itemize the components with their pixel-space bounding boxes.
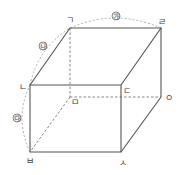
cuboid-diagram: ㉮ ㉯ ㉰ ㄱ ㄹ ㄴ ㄷ ㅁ ㅇ ㅂ ㅅ: [0, 0, 181, 175]
vertex-rieul: ㄹ: [158, 17, 166, 27]
vertex-bieup: ㅂ: [26, 156, 34, 166]
vertex-mieum: ㅁ: [71, 97, 79, 107]
vertex-nieun: ㄴ: [19, 82, 27, 92]
vertex-giyeok: ㄱ: [66, 15, 74, 25]
label-da: ㉰: [13, 114, 21, 123]
arc-da: [22, 85, 30, 152]
vertex-ieung: ㅇ: [165, 93, 173, 103]
vertex-digeut: ㄷ: [123, 86, 131, 96]
label-ga: ㉮: [112, 12, 120, 21]
vertex-siot: ㅅ: [119, 158, 127, 168]
label-na: ㉯: [39, 42, 47, 51]
svg-text:㉮: ㉮: [113, 13, 120, 21]
svg-text:㉯: ㉯: [40, 43, 47, 51]
svg-text:㉰: ㉰: [14, 115, 21, 123]
visible-edges: [30, 28, 161, 152]
hidden-edges: [30, 28, 161, 152]
